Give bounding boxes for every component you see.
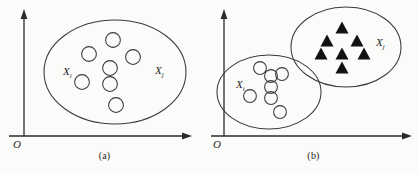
marker-circle — [274, 106, 287, 119]
region-label-xi: Xi — [235, 78, 245, 93]
marker-circle — [244, 90, 257, 103]
marker-circle — [126, 50, 141, 65]
region-label-xj: Xj — [375, 36, 385, 51]
panel-a-canvas: O Xi Xj — [0, 0, 209, 173]
region-label-xj: Xj — [154, 64, 164, 79]
panel-b-axes — [211, 9, 412, 139]
region-label-xi: Xi — [62, 65, 72, 80]
marker-triangle — [336, 62, 349, 74]
circle-markers — [75, 33, 141, 113]
region-label-xi-sub: i — [243, 85, 245, 93]
origin-label: O — [213, 138, 221, 150]
marker-circle — [106, 33, 121, 48]
x-axis-arrowhead-icon — [402, 133, 412, 140]
panel-a-caption: (a) — [0, 150, 225, 161]
origin-label: O — [13, 138, 21, 150]
marker-triangle — [336, 22, 349, 34]
marker-triangle — [321, 35, 334, 47]
region-label-xj-sub: j — [161, 71, 164, 79]
y-axis-arrowhead-icon — [21, 9, 28, 19]
marker-triangle — [351, 35, 364, 47]
marker-triangle — [315, 48, 328, 60]
marker-circle — [75, 75, 90, 90]
marker-circle — [103, 77, 118, 92]
panel-a: O Xi Xj (a) — [0, 0, 209, 173]
marker-circle — [103, 61, 118, 76]
region-label-xj-sub: j — [382, 43, 385, 51]
region-label-xi-sub: i — [70, 72, 72, 80]
marker-circle — [109, 98, 124, 113]
x-axis-arrowhead-icon — [182, 133, 192, 140]
panel-b: O Xi — [209, 0, 418, 173]
marker-circle — [82, 47, 97, 62]
panel-b-caption: (b) — [209, 150, 418, 161]
triangle-markers — [315, 22, 371, 74]
marker-triangle — [358, 48, 371, 60]
panel-b-canvas: O Xi — [209, 0, 418, 173]
y-axis-arrowhead-icon — [221, 9, 228, 19]
figure-root: O Xi Xj (a) — [0, 0, 418, 173]
circle-markers — [244, 62, 289, 119]
panel-a-axes — [9, 9, 192, 139]
marker-triangle — [336, 48, 349, 60]
marker-circle — [254, 62, 267, 75]
